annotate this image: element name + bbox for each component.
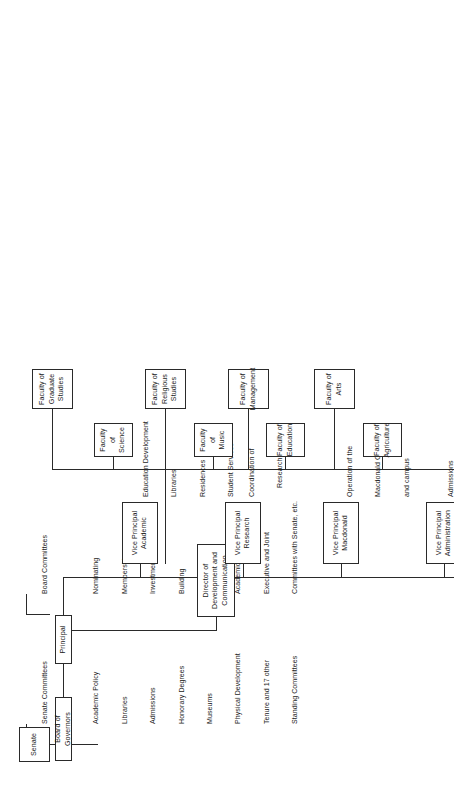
node-faculty-management[interactable]: Faculty of Management [228, 369, 269, 409]
node-faculty-agriculture-label: Faculty of Agriculture [373, 422, 392, 457]
board-committees-header: Board Committees [40, 501, 49, 594]
connector-board-committees-arm [26, 594, 27, 615]
node-vp-academic-label: Vice Principal Academic [131, 511, 150, 555]
node-faculty-religious-studies-label: Faculty of Religious Studies [151, 373, 179, 405]
senate-committees-header: Senate Committees [40, 653, 49, 724]
node-faculty-education-label: Faculty of Education [276, 424, 295, 456]
node-board-of-governors[interactable]: Board of Governors [55, 697, 72, 761]
node-principal-label: Principal [59, 625, 68, 653]
senate-committee-item: Standing Committees [290, 653, 299, 724]
board-committee-item: Building [177, 501, 186, 594]
senate-committee-item: Libraries [120, 653, 129, 724]
node-vp-macdonald-label: Vice Principal Macdonald [332, 511, 351, 555]
node-vp-academic[interactable]: Vice Principal Academic [122, 502, 158, 564]
node-faculty-arts-label: Faculty of Arts [325, 373, 344, 405]
board-committee-item: Committees with Senate, etc. [290, 501, 299, 594]
node-faculty-religious-studies[interactable]: Faculty of Religious Studies [145, 369, 186, 409]
node-vp-administration[interactable]: Vice Principal Administration [426, 502, 454, 564]
node-vp-research-label: Vice Principal Research [234, 511, 253, 555]
connector-principal-to-director [63, 630, 216, 631]
node-faculty-agriculture[interactable]: Faculty of Agriculture [363, 423, 402, 457]
connector-vp-macdonald [341, 564, 342, 578]
node-board-label: Board of Governors [54, 700, 73, 758]
node-faculty-science[interactable]: Faculty of Science [94, 423, 133, 457]
node-vp-macdonald[interactable]: Vice Principal Macdonald [323, 502, 359, 564]
node-faculty-arts[interactable]: Faculty of Arts [314, 369, 355, 409]
node-faculty-science-label: Faculty of Science [99, 426, 127, 454]
node-principal[interactable]: Principal [55, 615, 72, 664]
node-vp-administration-label: Vice Principal Administration [435, 510, 454, 556]
org-chart-canvas: Senate Board of Governors Principal Dire… [0, 0, 454, 809]
administration-unit-item: Admissions [446, 423, 454, 497]
senate-committee-item: Honorary Degrees [177, 653, 186, 724]
connector-faculty-graduate-studies [52, 409, 53, 470]
board-committee-item: Executive and Joint [262, 501, 271, 594]
board-committees-list: Board Committees Nominating Membership I… [21, 501, 319, 594]
connector-principal-to-director-arm [216, 617, 217, 631]
node-faculty-music[interactable]: Faculty of Music [194, 423, 233, 457]
senate-committee-item: Tenure and 17 other [262, 653, 271, 724]
board-committee-item: Nominating [91, 501, 100, 594]
connector-faculty-science [113, 457, 114, 470]
administration-units-list: Admissions College and School Liaison Co… [427, 423, 454, 497]
senate-committee-item: Admissions [148, 653, 157, 724]
academic-unit-item: Libraries [169, 421, 178, 497]
academic-unit-item: Education Development [141, 421, 150, 497]
senate-committee-item: Physical Development [233, 653, 242, 724]
node-faculty-management-label: Faculty of Management [239, 368, 258, 410]
macdonald-unit-item: and campus [402, 436, 411, 497]
node-senate[interactable]: Senate [19, 727, 50, 762]
connector-board-committees [26, 614, 50, 615]
research-unit-item: Coordination of [247, 448, 256, 497]
node-faculty-graduate-studies[interactable]: Faculty of Graduate Studies [32, 369, 73, 409]
node-senate-label: Senate [30, 733, 39, 756]
node-faculty-education[interactable]: Faculty of Education [266, 423, 305, 457]
macdonald-unit-item: Operation of the [345, 436, 354, 497]
connector-vp-administration [444, 564, 445, 578]
node-vp-research[interactable]: Vice Principal Research [225, 502, 261, 564]
node-faculty-music-label: Faculty of Music [199, 426, 227, 454]
senate-committee-item: Museums [205, 653, 214, 724]
node-faculty-graduate-studies-label: Faculty of Graduate Studies [38, 373, 66, 405]
senate-committee-item: Academic Policy [91, 653, 100, 724]
